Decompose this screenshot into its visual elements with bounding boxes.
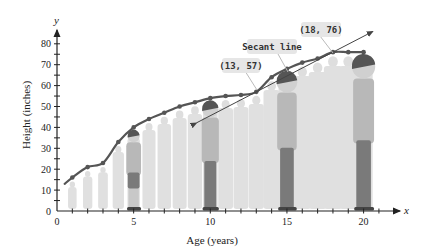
data-point (361, 50, 366, 55)
y-tick-label: 70 (41, 59, 51, 70)
silhouette-figure (234, 99, 249, 209)
data-point (223, 94, 228, 99)
data-point (131, 125, 136, 130)
silhouette-figure (188, 106, 202, 209)
silhouette-figure (309, 62, 327, 209)
silhouettes (68, 56, 373, 209)
data-point (101, 161, 106, 166)
silhouette-figure (173, 111, 187, 210)
x-tick-label: 5 (131, 216, 136, 227)
data-point (147, 117, 152, 122)
callout-label: Secant line (242, 42, 302, 52)
y-tick-label: 60 (41, 80, 51, 91)
data-point (162, 110, 167, 115)
data-point (300, 60, 305, 65)
callout-18-76: (18, 76) (299, 22, 342, 53)
y-axis-title: Height (inches) (20, 81, 33, 149)
x-axis-title: Age (years) (186, 234, 238, 247)
data-point (239, 93, 244, 98)
x-tick-label: 10 (205, 216, 215, 227)
data-point (85, 165, 90, 170)
x-tick-labels: 0 5 10 15 20 (55, 216, 369, 227)
callout-label: (13, 57) (219, 61, 262, 71)
data-point (193, 100, 198, 105)
data-point (116, 140, 121, 145)
silhouette-figure (142, 123, 155, 209)
callout-label: (18, 76) (299, 25, 342, 35)
y-tick-label: 0 (46, 206, 51, 217)
silhouette-figure (98, 167, 108, 209)
y-tick-label: 40 (41, 122, 51, 133)
x-tick-label: 15 (282, 216, 292, 227)
growth-chart: 0 5 10 15 20 0 10 20 30 40 50 60 70 80 x… (0, 0, 433, 252)
silhouette-figure (249, 96, 264, 209)
x-axis-variable: x (403, 204, 409, 216)
data-point (70, 175, 75, 180)
silhouette-figure (158, 117, 172, 209)
silhouette-figure (68, 182, 77, 209)
y-tick-label: 30 (41, 143, 51, 154)
y-tick-label: 20 (41, 164, 51, 175)
x-tick-label: 0 (55, 216, 60, 227)
silhouette-figure (113, 146, 124, 209)
y-tick-label: 10 (41, 185, 51, 196)
data-point (208, 96, 213, 101)
silhouette-figure (218, 100, 233, 209)
data-point (346, 50, 351, 55)
data-point (269, 75, 274, 80)
callout-13-57: (13, 57) (219, 58, 262, 90)
data-point (177, 104, 182, 109)
y-axis-variable: y (53, 14, 59, 26)
y-tick-labels: 0 10 20 30 40 50 60 70 80 (41, 38, 51, 216)
y-tick-label: 80 (41, 38, 51, 49)
silhouette-figure (83, 171, 92, 209)
y-tick-label: 50 (41, 101, 51, 112)
x-tick-label: 20 (359, 216, 369, 227)
